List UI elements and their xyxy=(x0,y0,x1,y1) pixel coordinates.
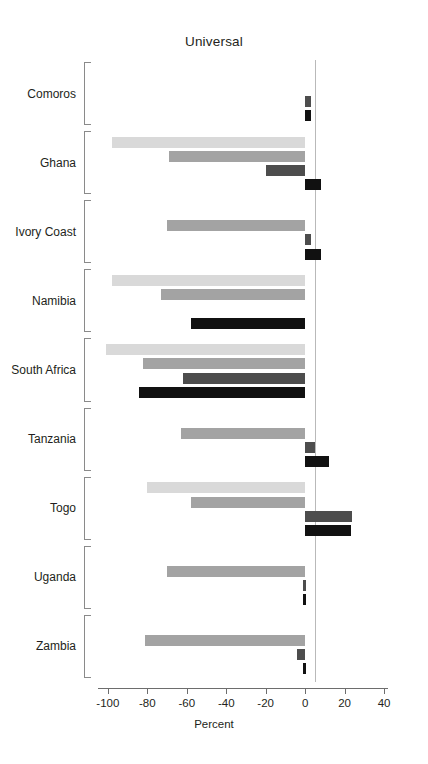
category-label: South Africa xyxy=(11,363,76,377)
chart-title: Universal xyxy=(0,34,428,49)
x-tick xyxy=(187,688,188,694)
chart-root: Universal ComorosGhanaIvory CoastNamibia… xyxy=(0,0,428,764)
x-axis-title: Percent xyxy=(0,718,428,730)
bar xyxy=(305,179,321,190)
category-label: Namibia xyxy=(32,294,76,308)
category-label: Zambia xyxy=(36,639,76,653)
bar xyxy=(112,137,305,148)
category-label: Togo xyxy=(50,501,76,515)
bar xyxy=(305,249,321,260)
bar xyxy=(191,497,305,508)
x-tick-label: -80 xyxy=(125,697,169,709)
bar xyxy=(143,358,305,369)
category-label: Uganda xyxy=(34,570,76,584)
category-label: Tanzania xyxy=(28,432,76,446)
x-tick xyxy=(147,688,148,694)
bar xyxy=(305,110,311,121)
zero-reference-line xyxy=(315,60,316,682)
category-bracket xyxy=(84,62,91,125)
bar xyxy=(297,649,305,660)
bar xyxy=(167,566,305,577)
category-bracket xyxy=(84,269,91,332)
plot-area xyxy=(98,60,388,682)
bar xyxy=(303,580,306,591)
x-tick xyxy=(305,688,306,694)
bar xyxy=(181,428,305,439)
bar xyxy=(183,373,305,384)
bar xyxy=(139,387,305,398)
category-bracket xyxy=(84,477,91,540)
x-tick-label: -20 xyxy=(244,697,288,709)
category-bracket xyxy=(84,615,91,678)
bar xyxy=(303,594,306,605)
bar xyxy=(191,318,305,329)
bar xyxy=(169,151,305,162)
bar xyxy=(305,525,350,536)
bar xyxy=(147,482,305,493)
bar xyxy=(305,442,315,453)
x-tick xyxy=(226,688,227,694)
x-tick xyxy=(266,688,267,694)
bar xyxy=(106,344,305,355)
category-bracket xyxy=(84,408,91,471)
bar xyxy=(112,275,305,286)
x-tick-label: 20 xyxy=(323,697,367,709)
x-tick-label: 40 xyxy=(362,697,406,709)
category-bracket xyxy=(84,131,91,194)
category-label: Ghana xyxy=(40,156,76,170)
bar xyxy=(266,165,305,176)
category-bracket xyxy=(84,200,91,263)
bar xyxy=(305,511,352,522)
x-tick xyxy=(108,688,109,694)
bar xyxy=(305,96,311,107)
x-tick-label: -40 xyxy=(204,697,248,709)
x-tick-label: 0 xyxy=(283,697,327,709)
bar xyxy=(303,663,306,674)
x-tick-label: -100 xyxy=(86,697,130,709)
x-tick xyxy=(345,688,346,694)
category-label: Comoros xyxy=(27,87,76,101)
category-label: Ivory Coast xyxy=(15,225,76,239)
bar xyxy=(305,234,311,245)
bar xyxy=(167,220,305,231)
category-bracket xyxy=(84,546,91,609)
x-tick-label: -60 xyxy=(165,697,209,709)
bar xyxy=(145,635,305,646)
x-tick xyxy=(384,688,385,694)
bar xyxy=(161,289,305,300)
category-bracket xyxy=(84,338,91,401)
bar xyxy=(305,456,329,467)
